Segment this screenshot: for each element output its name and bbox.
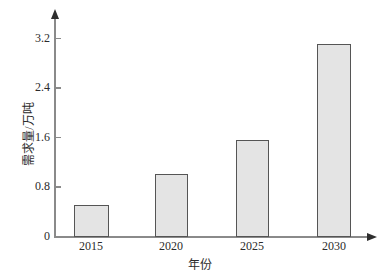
bar-2020 — [155, 174, 188, 236]
x-tick-label-2020: 2020 — [136, 240, 206, 252]
bar-2030 — [317, 44, 351, 237]
bar-2025 — [236, 140, 269, 236]
y-tick-mark-3-2 — [55, 38, 61, 40]
x-tick-label-2025: 2025 — [217, 240, 287, 252]
y-tick-label-3-2-wrap: 3.2 — [18, 32, 50, 44]
y-tick-mark-0-8 — [55, 186, 61, 188]
y-axis-title: 需求量/万吨 — [19, 92, 37, 176]
y-tick-mark-1-6 — [55, 137, 61, 139]
y-tick-label-3-2: 3.2 — [20, 32, 50, 44]
x-tick-label-2015: 2015 — [56, 240, 126, 252]
y-tick-label-0-wrap: 0 — [18, 230, 50, 242]
bar-2015 — [74, 205, 109, 236]
y-tick-mark-2-4 — [55, 87, 61, 89]
y-axis-line — [54, 18, 56, 237]
y-axis-arrow-icon — [51, 9, 59, 19]
x-axis-title: 年份 — [165, 255, 235, 273]
bar-chart: 3.2 2.4 1.6 0.8 0 2015 2020 2025 2030 年份… — [0, 0, 389, 277]
y-tick-label-0-8: 0.8 — [20, 180, 50, 192]
y-tick-label-0-8-wrap: 0.8 — [18, 180, 50, 192]
x-tick-label-2030: 2030 — [299, 240, 369, 252]
y-tick-label-0: 0 — [20, 230, 50, 242]
